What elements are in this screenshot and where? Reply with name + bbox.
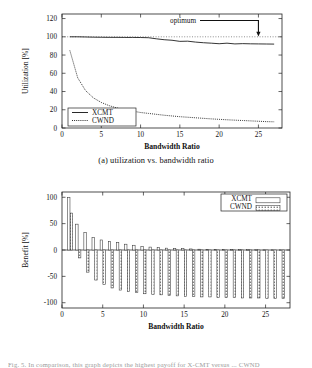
bar-xcmt xyxy=(76,224,78,250)
y-tick-label-b: 50 xyxy=(50,220,58,228)
bar-xcmt xyxy=(68,197,70,250)
bar-cwnd xyxy=(152,250,154,294)
bar-cwnd xyxy=(209,250,211,297)
bar-cwnd xyxy=(160,250,162,295)
y-tick-label-a: 20 xyxy=(50,106,58,114)
y-tick-label-a: 0 xyxy=(53,125,57,133)
x-tick-label-a: 10 xyxy=(137,131,145,139)
bar-xcmt xyxy=(108,242,110,250)
y-tick-label-a: 40 xyxy=(50,88,58,96)
bar-cwnd xyxy=(78,250,80,258)
x-axis-label-a: Bandwidth Ratio xyxy=(144,142,200,151)
y-tick-label-a: 60 xyxy=(50,70,58,78)
bar-cwnd xyxy=(184,250,186,296)
bar-xcmt xyxy=(222,249,224,250)
x-tick-label-b: 20 xyxy=(221,311,229,319)
y-tick-label-b: -50 xyxy=(47,273,57,281)
bar-cwnd xyxy=(135,250,137,293)
bar-xcmt xyxy=(157,248,159,250)
chart-b-container: -100-500501000510152025Bandwidth RatioBe… xyxy=(0,176,312,344)
bar-cwnd xyxy=(103,250,105,284)
bar-cwnd xyxy=(266,250,268,299)
legend-b-swatch-xcmt xyxy=(256,198,280,203)
x-tick-label-a: 0 xyxy=(60,131,64,139)
bar-xcmt xyxy=(100,240,102,250)
bar-xcmt xyxy=(198,249,200,250)
bar-cwnd xyxy=(144,250,146,294)
page-body-text-fragment: Fig. 5. In comparison, this graph depict… xyxy=(8,361,304,368)
chart-a-plot: 0204060801001200510152025Bandwidth Ratio… xyxy=(21,14,282,151)
y-tick-label-a: 120 xyxy=(46,15,57,23)
bar-cwnd xyxy=(87,250,89,272)
x-tick-label-a: 25 xyxy=(255,131,263,139)
bar-cwnd xyxy=(241,250,243,298)
bar-cwnd xyxy=(249,250,251,298)
chart-b-plot: -100-500501000510152025Bandwidth RatioBe… xyxy=(21,192,290,331)
legend-a-label-cwnd: CWND xyxy=(92,117,114,125)
y-tick-label-a: 100 xyxy=(46,33,57,41)
bar-xcmt xyxy=(271,250,273,251)
figure-b: -100-500501000510152025Bandwidth RatioBe… xyxy=(0,176,312,356)
bar-cwnd xyxy=(217,250,219,297)
bar-xcmt xyxy=(116,243,118,250)
bar-xcmt xyxy=(255,250,257,251)
utilization-line-chart: 0204060801001200510152025Bandwidth Ratio… xyxy=(0,0,312,152)
optimum-annotation-leader xyxy=(200,21,258,33)
x-tick-label-b: 25 xyxy=(262,311,270,319)
y-tick-label-b: -100 xyxy=(44,299,58,307)
bar-xcmt xyxy=(230,250,232,251)
bar-cwnd xyxy=(233,250,235,297)
legend-a-label-xcmt: XCMT xyxy=(92,109,113,117)
bar-cwnd xyxy=(111,250,113,288)
optimum-annotation-label: optimum xyxy=(170,17,196,25)
bar-cwnd xyxy=(70,213,72,250)
legend-a: XCMTCWND xyxy=(68,108,136,126)
bar-cwnd xyxy=(95,250,97,280)
x-tick-label-b: 0 xyxy=(60,311,64,319)
bar-xcmt xyxy=(133,245,135,250)
bar-xcmt xyxy=(190,249,192,250)
optimum-arrowhead-icon xyxy=(256,32,260,37)
x-tick-label-b: 5 xyxy=(101,311,105,319)
bar-cwnd xyxy=(127,250,129,292)
bar-xcmt xyxy=(239,250,241,251)
bar-xcmt xyxy=(149,247,151,250)
y-tick-label-a: 80 xyxy=(50,52,58,60)
x-tick-label-a: 5 xyxy=(99,131,103,139)
figure-a: 0204060801001200510152025Bandwidth Ratio… xyxy=(0,0,312,176)
y-tick-label-b: 0 xyxy=(53,247,57,255)
bar-xcmt xyxy=(214,249,216,250)
y-tick-label-b: 100 xyxy=(46,194,57,202)
bar-cwnd xyxy=(176,250,178,296)
bar-cwnd xyxy=(282,250,284,299)
bar-cwnd xyxy=(225,250,227,297)
bar-xcmt xyxy=(141,246,143,250)
bar-cwnd xyxy=(192,250,194,296)
legend-b: XCMTCWND xyxy=(221,194,287,211)
x-tick-label-b: 10 xyxy=(140,311,148,319)
bar-xcmt xyxy=(125,244,127,250)
bar-xcmt xyxy=(173,248,175,250)
bar-cwnd xyxy=(119,250,121,290)
caption-a: (a) utilization vs. bandwidth ratio xyxy=(0,156,312,165)
bar-xcmt xyxy=(165,248,167,250)
bar-cwnd xyxy=(168,250,170,295)
benefit-bar-chart: -100-500501000510152025Bandwidth RatioBe… xyxy=(0,176,312,344)
y-axis-label-b: Benefit [%] xyxy=(21,232,30,268)
bar-xcmt xyxy=(182,249,184,250)
bar-xcmt xyxy=(263,250,265,251)
y-axis-label-a: Utilization [%] xyxy=(21,48,30,94)
chart-a-container: 0204060801001200510152025Bandwidth Ratio… xyxy=(0,0,312,152)
x-tick-label-a: 15 xyxy=(176,131,184,139)
bar-xcmt xyxy=(84,233,86,250)
legend-b-label-cwnd: CWND xyxy=(230,203,252,211)
legend-b-swatch-cwnd xyxy=(256,205,280,210)
bar-cwnd xyxy=(258,250,260,298)
series-line-xcmt xyxy=(70,37,274,44)
bar-xcmt xyxy=(279,250,281,251)
bar-xcmt xyxy=(247,250,249,251)
bar-cwnd xyxy=(274,250,276,299)
figure-page: 0204060801001200510152025Bandwidth Ratio… xyxy=(0,0,312,368)
bar-xcmt xyxy=(92,237,94,250)
bar-xcmt xyxy=(206,249,208,250)
